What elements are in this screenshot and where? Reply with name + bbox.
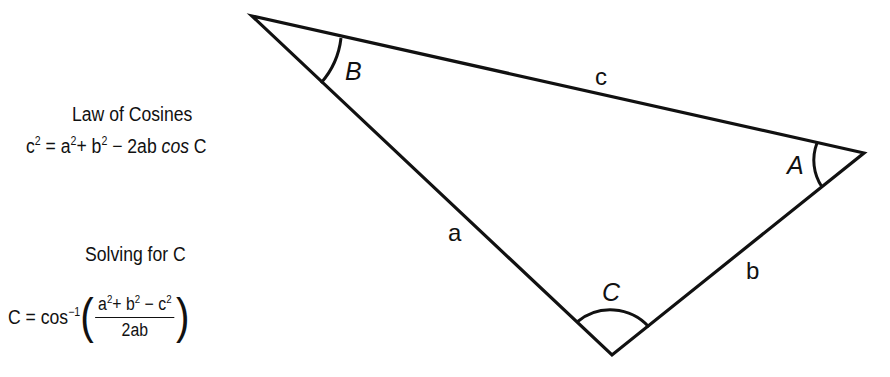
solve-lhs-group: C = cos−1 — [8, 306, 80, 329]
angle-a-arc — [814, 143, 822, 187]
fraction-denominator: 2ab — [122, 318, 148, 341]
open-paren: ( — [80, 290, 93, 341]
angle-b-arc — [321, 38, 341, 83]
law-plus-b: + b — [76, 135, 101, 157]
side-label-b: b — [746, 259, 759, 283]
angle-c-arc — [577, 310, 649, 327]
solve-formula: C = cos−1 ( a2+ b2 − c2 2ab ) — [8, 287, 189, 347]
law-rest: − 2ab — [107, 135, 161, 157]
close-paren: ) — [176, 290, 189, 341]
side-label-c: c — [595, 65, 607, 89]
law-heading: Law of Cosines — [72, 103, 192, 126]
angle-label-b: B — [345, 59, 362, 84]
angle-label-c: C — [602, 280, 620, 305]
num-plus-b: + b — [112, 294, 134, 314]
law-formula: c2 = a2+ b2 − 2ab cos C — [26, 135, 207, 158]
law-of-cosines-diagram: B A C c a b Law of Cosines c2 = a2+ b2 −… — [0, 0, 890, 377]
side-label-a: a — [448, 221, 461, 245]
solve-inv-exp: −1 — [68, 305, 80, 319]
solve-lhs: C = cos — [8, 306, 68, 328]
law-cos: cos — [162, 135, 189, 157]
law-eq: = a — [41, 135, 71, 157]
fraction: a2+ b2 − c2 2ab — [95, 294, 174, 341]
angle-label-a: A — [787, 153, 804, 178]
fraction-numerator: a2+ b2 − c2 — [95, 294, 174, 318]
law-lhs: c — [26, 135, 35, 157]
triangle-outline — [252, 16, 864, 355]
num-minus-c: − c — [140, 294, 166, 314]
law-tail: C — [189, 135, 207, 157]
solve-heading: Solving for C — [85, 243, 186, 266]
num-c-exp: 2 — [166, 293, 171, 305]
